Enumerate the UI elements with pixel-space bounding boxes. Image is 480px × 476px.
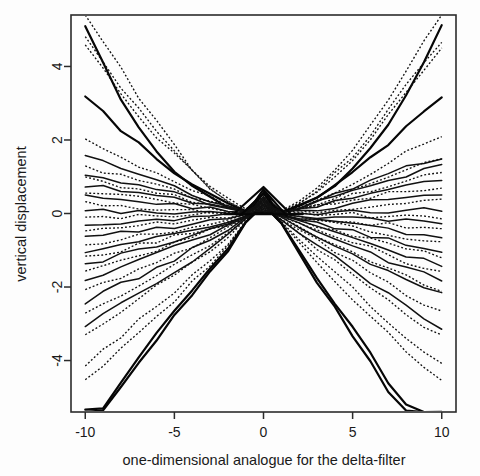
y-tick-label: -4 (49, 354, 65, 367)
y-tick-label: -2 (49, 281, 65, 294)
y-tick-label: 4 (49, 62, 65, 70)
y-tick-label: 2 (49, 136, 65, 144)
y-tick-label: 0 (49, 209, 65, 217)
x-tick-label: 10 (434, 424, 450, 440)
x-tick-label: -5 (168, 424, 181, 440)
x-tick-label: 0 (260, 424, 268, 440)
chart-figure: -10-50510 -4-2024 one-dimensional analog… (0, 0, 480, 476)
x-tick-label: 5 (349, 424, 357, 440)
plot-canvas: -10-50510 -4-2024 one-dimensional analog… (0, 0, 480, 476)
x-tick-label: -10 (75, 424, 95, 440)
y-axis-label: vertical displacement (13, 146, 29, 281)
x-axis-label: one-dimensional analogue for the delta-f… (123, 452, 406, 468)
